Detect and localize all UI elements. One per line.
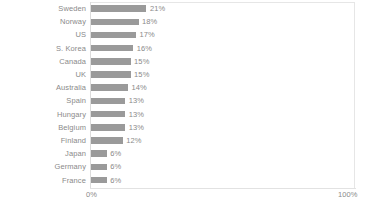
bar (91, 45, 133, 52)
bar-row: France6% (0, 173, 370, 186)
footer-strip (0, 201, 370, 205)
bar-value-label: 12% (126, 136, 141, 145)
bar-chart: Sweden21%Norway18%US17%S. Korea16%Canada… (0, 0, 370, 205)
category-label: Finland (0, 136, 86, 145)
bar-track: 13% (91, 121, 355, 134)
bar-rows: Sweden21%Norway18%US17%S. Korea16%Canada… (0, 2, 370, 187)
bar (91, 32, 136, 39)
bar-track: 12% (91, 134, 355, 147)
bar-track: 21% (91, 2, 355, 15)
category-label: Sweden (0, 4, 86, 13)
bar (91, 19, 139, 26)
bar-value-label: 6% (110, 149, 121, 158)
category-label: Canada (0, 57, 86, 66)
bar-row: Norway18% (0, 15, 370, 28)
bar-value-label: 13% (129, 96, 144, 105)
bar-track: 15% (91, 68, 355, 81)
category-label: S. Korea (0, 44, 86, 53)
bar-row: Sweden21% (0, 2, 370, 15)
category-label: Germany (0, 162, 86, 171)
bar-value-label: 17% (139, 30, 154, 39)
bar-track: 14% (91, 81, 355, 94)
bar-track: 6% (91, 160, 355, 173)
bar-value-label: 16% (137, 44, 152, 53)
category-label: Australia (0, 83, 86, 92)
bar (91, 58, 131, 65)
bar-track: 6% (91, 173, 355, 186)
bar (91, 124, 125, 131)
axis-min-label: 0% (86, 190, 97, 199)
bar-value-label: 13% (129, 110, 144, 119)
bar-row: US17% (0, 28, 370, 41)
bar (91, 164, 107, 171)
bar (91, 71, 131, 78)
axis-max-label: 100% (338, 190, 358, 199)
category-label: Belgium (0, 123, 86, 132)
bar-row: Canada15% (0, 55, 370, 68)
bar-row: Finland12% (0, 134, 370, 147)
bar-row: Australia14% (0, 81, 370, 94)
bar-row: Germany6% (0, 160, 370, 173)
bar-value-label: 15% (134, 70, 149, 79)
bar-track: 13% (91, 94, 355, 107)
bar-value-label: 18% (142, 17, 157, 26)
bar-value-label: 14% (131, 83, 146, 92)
bar-row: Spain13% (0, 94, 370, 107)
bar-row: Japan6% (0, 147, 370, 160)
bar-track: 13% (91, 108, 355, 121)
bar-value-label: 21% (150, 4, 165, 13)
bar (91, 137, 123, 144)
bar-value-label: 13% (129, 123, 144, 132)
bar-track: 17% (91, 28, 355, 41)
category-label: Japan (0, 149, 86, 158)
bar-value-label: 6% (110, 176, 121, 185)
bar (91, 150, 107, 157)
value-axis-baseline (90, 188, 356, 189)
bar-value-label: 15% (134, 57, 149, 66)
bar-value-label: 6% (110, 162, 121, 171)
category-label: Norway (0, 17, 86, 26)
bar (91, 177, 107, 184)
bar (91, 98, 125, 105)
bar-track: 15% (91, 55, 355, 68)
bar-track: 18% (91, 15, 355, 28)
category-label: Hungary (0, 110, 86, 119)
bar-row: Belgium13% (0, 121, 370, 134)
bar-row: UK15% (0, 68, 370, 81)
bar (91, 5, 146, 12)
category-label: Spain (0, 96, 86, 105)
bar (91, 111, 125, 118)
bar-row: Hungary13% (0, 108, 370, 121)
bar-row: S. Korea16% (0, 42, 370, 55)
bar (91, 84, 128, 91)
bar-track: 16% (91, 42, 355, 55)
category-label: France (0, 176, 86, 185)
bar-track: 6% (91, 147, 355, 160)
category-label: US (0, 30, 86, 39)
category-label: UK (0, 70, 86, 79)
